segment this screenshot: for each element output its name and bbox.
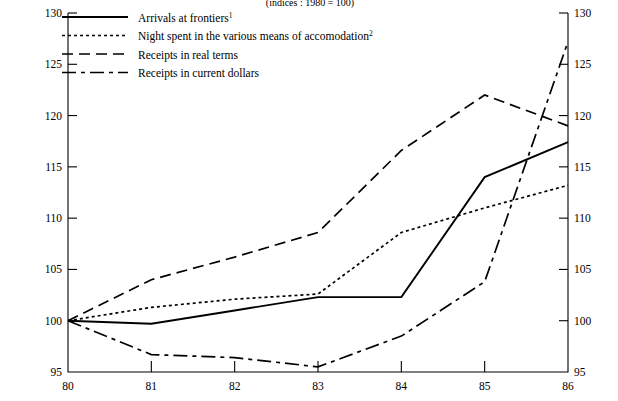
y-axis-right-tick-label: 115	[574, 161, 591, 173]
y-axis-right-tick-label: 105	[574, 263, 592, 275]
x-axis-tick-label: 85	[479, 380, 491, 392]
x-axis-tick-label: 81	[146, 380, 158, 392]
x-axis-tick-label: 84	[396, 380, 408, 392]
legend-footnote-marker-2: 2	[369, 29, 373, 38]
series-line-2	[68, 185, 568, 320]
chart-legend: Arrivals at frontiers1Night spent in the…	[62, 11, 373, 81]
legend-label-4: Receipts in current dollars	[138, 67, 260, 80]
y-axis-right-tick-label: 100	[574, 315, 592, 327]
y-axis-left-tick-label: 105	[45, 263, 63, 275]
y-axis-right-tick-label: 120	[574, 110, 592, 122]
chart-title: (indices : 1980 = 100)	[266, 0, 354, 9]
x-axis-tick-labels: 80818283848586	[62, 380, 574, 392]
y-axis-right-tick-label: 95	[574, 366, 586, 378]
y-axis-right-tick-labels: 95100105110115120125130	[574, 7, 592, 378]
y-axis-right-tick-label: 125	[574, 58, 592, 70]
y-axis-left-tick-label: 115	[45, 161, 62, 173]
legend-label-1: Arrivals at frontiers1	[138, 11, 233, 24]
y-axis-right-tick-label: 130	[574, 7, 592, 19]
series-line-3	[68, 95, 568, 321]
y-axis-left-tick-label: 120	[45, 110, 63, 122]
y-axis-left-tick-label: 125	[45, 58, 63, 70]
y-axis-left-tick-label: 100	[45, 315, 63, 327]
legend-footnote-marker-1: 1	[229, 11, 233, 20]
series-line-4	[68, 42, 568, 367]
x-axis-tick-label: 82	[229, 380, 241, 392]
x-axis-tick-label: 83	[312, 380, 324, 392]
series-group	[68, 42, 568, 367]
legend-label-3: Receipts in real terms	[138, 49, 238, 62]
chart-canvas: (indices : 1980 = 100) 95100105110115120…	[0, 0, 618, 401]
y-axis-left-tick-label: 130	[45, 7, 63, 19]
x-axis-tick-label: 80	[62, 380, 74, 392]
y-axis-left-tick-label: 95	[51, 366, 63, 378]
legend-label-2: Night spent in the various means of acco…	[138, 29, 373, 43]
y-axis-right-tick-label: 110	[574, 212, 591, 224]
y-axis-left-tick-label: 110	[45, 212, 62, 224]
y-axis-left-tick-labels: 95100105110115120125130	[45, 7, 63, 378]
tourism-index-line-chart: (indices : 1980 = 100) 95100105110115120…	[0, 0, 618, 401]
x-axis-tick-label: 86	[562, 380, 574, 392]
